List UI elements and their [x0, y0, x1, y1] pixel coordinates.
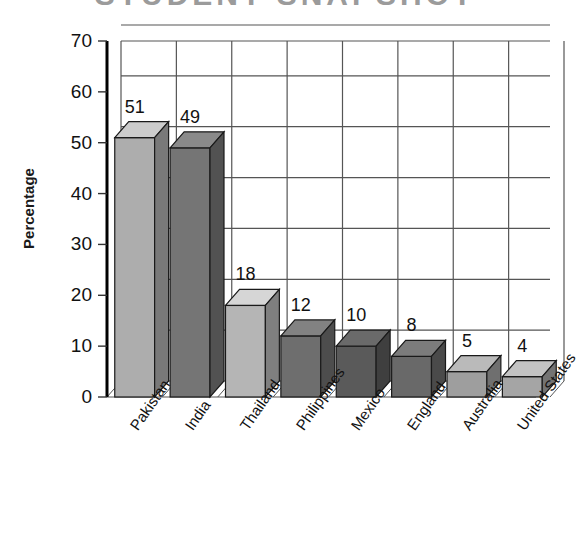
bar-value-label: 51 [105, 98, 165, 116]
bar-value-label: 10 [326, 306, 386, 324]
bar-mexico [336, 330, 390, 397]
bar-value-label: 5 [437, 332, 497, 350]
bar-value-label: 12 [271, 296, 331, 314]
bar-value-label: 8 [382, 316, 442, 334]
bar-india [170, 132, 224, 397]
bar-value-label: 4 [492, 337, 552, 355]
bar-pakistan [115, 122, 169, 397]
bar-side-face [155, 122, 169, 397]
bar-value-label: 18 [215, 265, 275, 283]
bar-front-face [281, 336, 321, 397]
bar-value-label: 49 [160, 108, 220, 126]
bar-front-face [226, 305, 266, 397]
bar-front-face [170, 148, 210, 397]
bar-front-face [115, 138, 155, 397]
bar-side-face [210, 132, 224, 397]
